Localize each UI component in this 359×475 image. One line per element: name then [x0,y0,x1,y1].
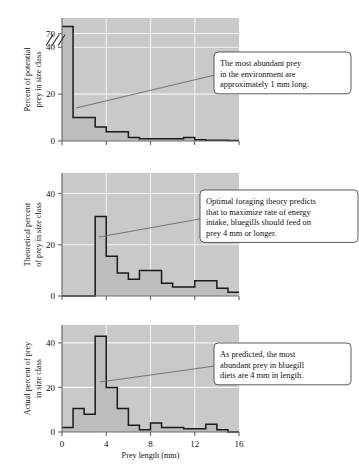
y-axis-title-line2: of prey in size class [34,202,43,267]
y-axis-title-line2: prey in size class [34,52,43,108]
panel-potential-prey: 0204070Percent of potentialprey in size … [23,18,239,146]
x-axis-title: Prey length (mm) [122,451,180,460]
callout-line: The most abundant prey [220,59,302,68]
y-tick-label: 20 [46,240,56,250]
callout-line: prey 4 mm or longer. [206,229,276,238]
callout-line: Optimal foraging theory predicts [206,197,316,206]
y-axis-title-line1: Theoretical percent [23,202,32,266]
x-tick-label: 4 [104,439,109,449]
callout-line: that to maximize rate of energy [206,208,312,217]
figure-container: 0204070Percent of potentialprey in size … [0,0,359,475]
x-tick-label: 8 [148,439,153,449]
y-tick-label: 0 [51,136,56,146]
callout-line: diets are 4 mm in length. [220,371,303,380]
y-axis-title-line2: in size class [34,359,43,398]
x-tick-label: 12 [190,439,199,449]
callout-line: approximately 1 mm long. [220,80,309,89]
y-axis-title-line1: Percent of potential [23,47,32,112]
y-tick-label: 40 [46,338,56,348]
callout-line: intake, bluegills should feed on [206,218,312,227]
y-tick-label: 40 [46,189,56,199]
y-tick-label: 20 [46,89,56,99]
y-tick-label: 0 [51,291,56,301]
prey-size-figure: 0204070Percent of potentialprey in size … [0,0,359,475]
x-tick-label: 16 [235,439,245,449]
x-tick-label: 0 [60,439,65,449]
callout-line: As predicted, the most [220,350,296,359]
panel-actual-prey: 020400481216Actual percent of preyin siz… [23,325,244,449]
y-axis-title-line1: Actual percent of prey [23,341,32,415]
callout-line: abundant prey in bluegill [220,361,305,370]
y-tick-label: 20 [46,383,56,393]
y-tick-label: 0 [51,427,56,437]
callout-line: in the environment are [220,70,296,79]
